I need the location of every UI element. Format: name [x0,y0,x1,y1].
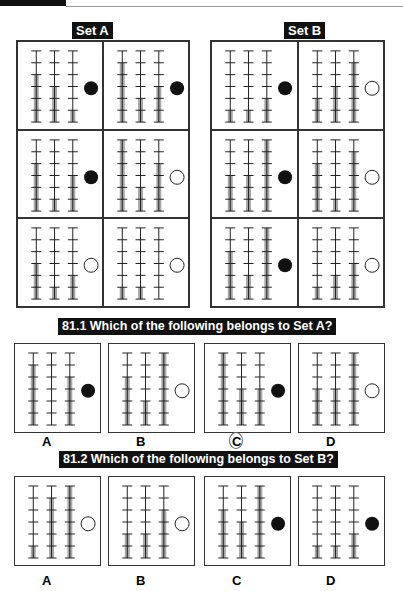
abacus-figure [212,219,299,308]
abacus-figure [299,219,386,308]
empty-dot-icon [365,170,379,184]
option-d-label[interactable]: D [326,573,335,588]
panel-4 [103,130,189,219]
panel-5 [17,218,103,307]
abacus-figure [109,477,196,567]
panel-3 [211,130,298,219]
option-b-panel[interactable] [108,343,195,433]
filled-dot-icon [271,384,285,398]
panel-5 [211,218,298,307]
panel-1 [211,41,298,130]
set-a-label: Set A [72,22,113,39]
abacus-figure [15,477,102,567]
empty-dot-icon [175,517,189,531]
filled-dot-icon [271,517,285,531]
abacus-figure [18,42,105,131]
option-c-panel[interactable] [204,343,291,433]
option-a-panel[interactable] [14,476,101,566]
option-a-label[interactable]: A [42,434,51,449]
question-81-1: 81.1 Which of the following belongs to S… [58,318,336,335]
panel-3 [17,130,103,219]
abacus-figure [104,131,191,220]
abacus-figure [15,344,102,434]
abacus-figure [205,477,292,567]
abacus-figure [299,42,386,131]
filled-dot-icon [278,259,292,273]
abacus-figure [299,477,386,567]
option-b-label[interactable]: B [136,434,145,449]
abacus-figure [212,131,299,220]
header-strip [0,0,66,6]
abacus-figure [299,344,386,434]
panel-2 [103,41,189,130]
filled-dot-icon [365,517,379,531]
abacus-figure [18,219,105,308]
set-b-label: Set B [284,22,325,39]
option-c-label[interactable]: C [232,573,241,588]
abacus-figure [205,344,292,434]
option-a-label[interactable]: A [42,573,51,588]
abacus-figure [299,131,386,220]
answer-circle-mark [229,432,243,449]
empty-dot-icon [81,517,95,531]
abacus-figure [104,219,191,308]
panel-6 [103,218,189,307]
option-d-panel[interactable] [298,476,385,566]
panel-1 [17,41,103,130]
filled-dot-icon [278,81,292,95]
filled-dot-icon [84,81,98,95]
header-rule [66,6,403,7]
empty-dot-icon [84,259,98,273]
set-a-grid [16,40,190,308]
panel-6 [298,218,385,307]
empty-dot-icon [170,259,184,273]
option-a-panel[interactable] [14,343,101,433]
empty-dot-icon [170,170,184,184]
empty-dot-icon [365,384,379,398]
abacus-figure [109,344,196,434]
filled-dot-icon [170,81,184,95]
filled-dot-icon [278,170,292,184]
abacus-figure [104,42,191,131]
empty-dot-icon [365,259,379,273]
option-c-panel[interactable] [204,476,291,566]
filled-dot-icon [84,170,98,184]
filled-dot-icon [81,384,95,398]
abacus-figure [212,42,299,131]
abacus-figure [18,131,105,220]
option-b-panel[interactable] [108,476,195,566]
question-81-2: 81.2 Which of the following belongs to S… [59,451,338,468]
option-d-panel[interactable] [298,343,385,433]
panel-4 [298,130,385,219]
option-b-label[interactable]: B [136,573,145,588]
set-b-grid [210,40,385,308]
empty-dot-icon [175,384,189,398]
panel-2 [298,41,385,130]
empty-dot-icon [365,81,379,95]
option-d-label[interactable]: D [326,434,335,449]
